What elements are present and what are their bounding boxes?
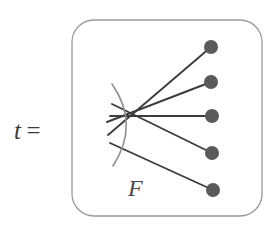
endpoint-dot-1 xyxy=(204,40,218,54)
arc-f-label: F xyxy=(128,176,143,200)
endpoint-dot-4 xyxy=(205,146,219,160)
endpoint-dot-2 xyxy=(204,75,218,89)
endpoint-dot-3 xyxy=(205,109,219,123)
figure-canvas: t = F xyxy=(0,0,278,228)
endpoint-dot-5 xyxy=(206,183,220,197)
rounded-box-outline xyxy=(72,20,262,216)
